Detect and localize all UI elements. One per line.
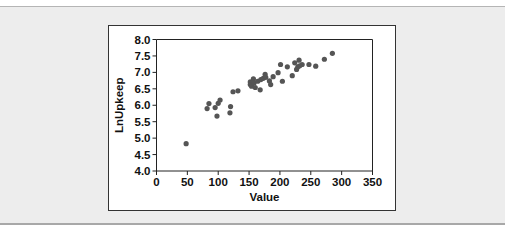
data-point [278, 62, 283, 67]
data-point [230, 89, 235, 94]
data-point [290, 73, 295, 78]
x-tick-label: 50 [181, 176, 194, 188]
data-point [275, 70, 280, 75]
data-point [213, 105, 218, 110]
data-points [184, 51, 335, 147]
y-ticks: 4.04.55.05.56.06.57.07.58.0 [135, 34, 157, 178]
data-point [271, 74, 276, 79]
y-tick-label: 5.5 [135, 116, 152, 128]
data-point [280, 79, 285, 84]
y-axis-title: LnUpkeep [113, 77, 125, 133]
data-point [306, 62, 311, 67]
x-ticks: 050100150200250300350 [153, 171, 382, 188]
y-tick-label: 8.0 [135, 34, 151, 46]
data-point [184, 141, 189, 146]
y-tick-label: 5.0 [135, 132, 151, 144]
y-tick-label: 6.5 [135, 83, 152, 95]
data-point [206, 101, 211, 106]
data-point [205, 106, 210, 111]
axes [157, 40, 373, 172]
data-point [217, 97, 222, 102]
x-axis-title: Value [249, 191, 279, 203]
x-tick-label: 300 [332, 176, 351, 188]
y-tick-label: 4.5 [135, 149, 152, 161]
data-point [258, 87, 263, 92]
data-point [253, 85, 258, 90]
data-point [285, 64, 290, 69]
data-point [313, 64, 318, 69]
y-tick-label: 7.0 [135, 66, 151, 78]
data-point [227, 110, 232, 115]
y-tick-label: 7.5 [135, 50, 152, 62]
data-point [263, 75, 268, 80]
y-tick-label: 6.0 [135, 99, 151, 111]
data-point [330, 51, 335, 56]
x-tick-label: 150 [239, 176, 258, 188]
data-point [296, 58, 301, 63]
x-tick-label: 0 [153, 176, 159, 188]
data-point [235, 88, 240, 93]
x-tick-label: 100 [209, 176, 228, 188]
scatter-chart: 050100150200250300350 4.04.55.05.56.06.5… [0, 0, 511, 231]
data-point [268, 82, 273, 87]
x-tick-label: 250 [301, 176, 320, 188]
x-tick-label: 350 [363, 176, 382, 188]
y-tick-label: 4.0 [135, 165, 151, 177]
data-point [214, 113, 219, 118]
data-point [322, 57, 327, 62]
data-point [228, 104, 233, 109]
x-tick-label: 200 [270, 176, 289, 188]
data-point [300, 62, 305, 67]
